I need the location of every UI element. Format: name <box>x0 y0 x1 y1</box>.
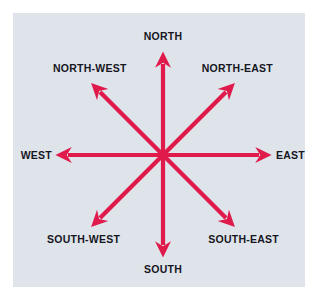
arrow-south-west <box>100 155 163 218</box>
direction-label-north-east: NORTH-EAST <box>202 63 273 74</box>
arrow-north-east <box>163 92 226 155</box>
direction-label-south: SOUTH <box>144 264 182 275</box>
compass-figure: NORTH NORTH-EAST EAST SOUTH-EAST SOUTH S… <box>0 0 322 299</box>
direction-label-north-west: NORTH-WEST <box>53 63 127 74</box>
direction-label-east: EAST <box>276 150 305 161</box>
arrow-south-east <box>163 155 226 218</box>
direction-label-south-west: SOUTH-WEST <box>47 234 120 245</box>
arrow-north-west <box>100 92 163 155</box>
direction-label-south-east: SOUTH-EAST <box>208 234 279 245</box>
direction-label-west: WEST <box>21 150 52 161</box>
direction-label-north: NORTH <box>144 31 183 42</box>
